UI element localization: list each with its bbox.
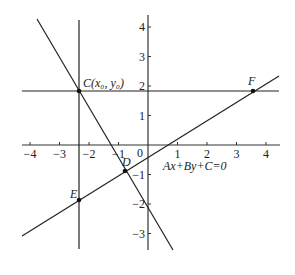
point-E-label: E xyxy=(69,187,78,201)
point-D xyxy=(123,169,128,174)
y-tick-label: −1 xyxy=(132,168,145,182)
x-tick-label: −3 xyxy=(53,147,66,161)
point-F xyxy=(251,89,256,94)
point-F-label: F xyxy=(247,74,256,88)
coordinate-diagram: −4−3−2−11234 4321−1−2−3 0 C(x₀, y₀) D E … xyxy=(0,0,295,275)
point-D-label: D xyxy=(121,155,131,169)
point-C xyxy=(77,89,82,94)
point-E xyxy=(77,198,82,203)
x-tick-label: 3 xyxy=(234,147,240,161)
origin-label: 0 xyxy=(137,146,143,160)
y-tick-label: 3 xyxy=(139,50,145,64)
x-tick-label: −2 xyxy=(83,147,96,161)
x-tick-label: 4 xyxy=(263,147,269,161)
y-tick-label: 1 xyxy=(139,109,145,123)
y-tick-label: −3 xyxy=(132,227,145,241)
x-tick-label: −4 xyxy=(24,147,37,161)
equation-label: Ax+By+C=0 xyxy=(162,159,227,173)
point-C-label: C(x₀, y₀) xyxy=(83,76,124,90)
y-tick-label: 4 xyxy=(139,20,145,34)
steep-line-through-C-D xyxy=(37,19,173,250)
